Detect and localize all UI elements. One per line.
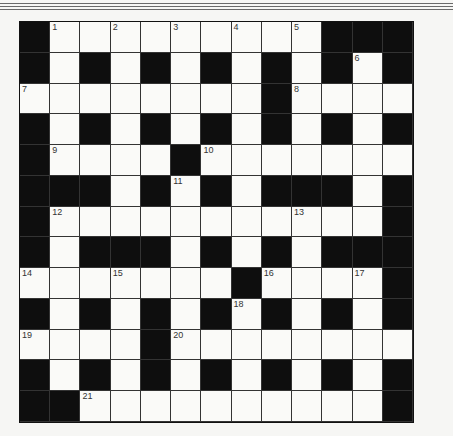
grid-cell[interactable] <box>322 145 352 176</box>
grid-cell[interactable] <box>111 53 141 84</box>
grid-cell[interactable] <box>232 176 262 207</box>
grid-cell[interactable] <box>171 360 201 391</box>
grid-cell[interactable]: 11 <box>171 176 201 207</box>
grid-cell[interactable] <box>292 299 322 330</box>
grid-cell[interactable] <box>383 330 413 361</box>
grid-cell[interactable] <box>292 145 322 176</box>
grid-cell[interactable] <box>292 268 322 299</box>
grid-cell[interactable] <box>353 176 383 207</box>
grid-cell[interactable]: 2 <box>111 22 141 53</box>
grid-cell[interactable] <box>141 268 171 299</box>
grid-cell[interactable] <box>80 330 110 361</box>
grid-cell[interactable] <box>322 330 352 361</box>
grid-cell[interactable] <box>171 391 201 422</box>
grid-cell[interactable] <box>383 145 413 176</box>
grid-cell[interactable] <box>171 53 201 84</box>
grid-cell[interactable] <box>171 114 201 145</box>
grid-cell[interactable] <box>292 360 322 391</box>
grid-cell[interactable] <box>292 53 322 84</box>
grid-cell[interactable] <box>171 237 201 268</box>
grid-cell[interactable] <box>232 114 262 145</box>
grid-cell[interactable] <box>111 176 141 207</box>
grid-cell[interactable] <box>50 237 80 268</box>
grid-cell[interactable] <box>322 84 352 115</box>
grid-cell[interactable] <box>232 330 262 361</box>
grid-cell[interactable] <box>50 268 80 299</box>
grid-cell[interactable] <box>111 114 141 145</box>
grid-cell[interactable] <box>80 84 110 115</box>
grid-cell[interactable] <box>353 145 383 176</box>
grid-cell[interactable] <box>201 268 231 299</box>
grid-cell[interactable] <box>353 207 383 238</box>
grid-cell[interactable] <box>171 299 201 330</box>
grid-cell[interactable] <box>232 237 262 268</box>
grid-cell[interactable]: 16 <box>262 268 292 299</box>
grid-cell[interactable] <box>111 299 141 330</box>
grid-cell[interactable] <box>353 299 383 330</box>
grid-cell[interactable] <box>111 84 141 115</box>
grid-cell[interactable] <box>201 391 231 422</box>
grid-cell[interactable] <box>232 145 262 176</box>
grid-cell[interactable] <box>141 145 171 176</box>
grid-cell[interactable] <box>232 84 262 115</box>
grid-cell[interactable] <box>111 391 141 422</box>
grid-cell[interactable]: 21 <box>80 391 110 422</box>
grid-cell[interactable] <box>353 360 383 391</box>
grid-cell[interactable] <box>292 114 322 145</box>
grid-cell[interactable] <box>80 22 110 53</box>
grid-cell[interactable] <box>50 53 80 84</box>
grid-cell[interactable] <box>171 84 201 115</box>
grid-cell[interactable] <box>111 360 141 391</box>
grid-cell[interactable] <box>322 207 352 238</box>
grid-cell[interactable] <box>232 207 262 238</box>
grid-cell[interactable] <box>141 391 171 422</box>
grid-cell[interactable] <box>353 330 383 361</box>
grid-cell[interactable]: 13 <box>292 207 322 238</box>
grid-cell[interactable]: 15 <box>111 268 141 299</box>
grid-cell[interactable]: 5 <box>292 22 322 53</box>
grid-cell[interactable]: 20 <box>171 330 201 361</box>
grid-cell[interactable] <box>201 22 231 53</box>
grid-cell[interactable] <box>201 330 231 361</box>
grid-cell[interactable] <box>262 207 292 238</box>
grid-cell[interactable] <box>111 145 141 176</box>
grid-cell[interactable] <box>80 268 110 299</box>
grid-cell[interactable] <box>141 84 171 115</box>
grid-cell[interactable]: 7 <box>20 84 50 115</box>
grid-cell[interactable] <box>111 330 141 361</box>
grid-cell[interactable] <box>80 145 110 176</box>
grid-cell[interactable] <box>201 84 231 115</box>
grid-cell[interactable]: 9 <box>50 145 80 176</box>
grid-cell[interactable]: 8 <box>292 84 322 115</box>
grid-cell[interactable] <box>80 207 110 238</box>
grid-cell[interactable] <box>232 391 262 422</box>
grid-cell[interactable] <box>292 391 322 422</box>
grid-cell[interactable] <box>50 360 80 391</box>
grid-cell[interactable]: 12 <box>50 207 80 238</box>
grid-cell[interactable]: 19 <box>20 330 50 361</box>
grid-cell[interactable] <box>232 53 262 84</box>
grid-cell[interactable] <box>201 207 231 238</box>
grid-cell[interactable] <box>50 330 80 361</box>
grid-cell[interactable] <box>50 299 80 330</box>
grid-cell[interactable] <box>292 330 322 361</box>
grid-cell[interactable] <box>171 207 201 238</box>
grid-cell[interactable] <box>50 84 80 115</box>
grid-cell[interactable] <box>262 391 292 422</box>
grid-cell[interactable] <box>322 391 352 422</box>
grid-cell[interactable]: 10 <box>201 145 231 176</box>
grid-cell[interactable] <box>383 84 413 115</box>
grid-cell[interactable]: 18 <box>232 299 262 330</box>
grid-cell[interactable]: 3 <box>171 22 201 53</box>
grid-cell[interactable]: 14 <box>20 268 50 299</box>
grid-cell[interactable] <box>232 360 262 391</box>
grid-cell[interactable] <box>141 207 171 238</box>
grid-cell[interactable] <box>50 114 80 145</box>
grid-cell[interactable]: 4 <box>232 22 262 53</box>
grid-cell[interactable] <box>141 22 171 53</box>
grid-cell[interactable] <box>292 237 322 268</box>
grid-cell[interactable]: 17 <box>353 268 383 299</box>
grid-cell[interactable] <box>262 22 292 53</box>
grid-cell[interactable] <box>353 114 383 145</box>
grid-cell[interactable] <box>353 84 383 115</box>
